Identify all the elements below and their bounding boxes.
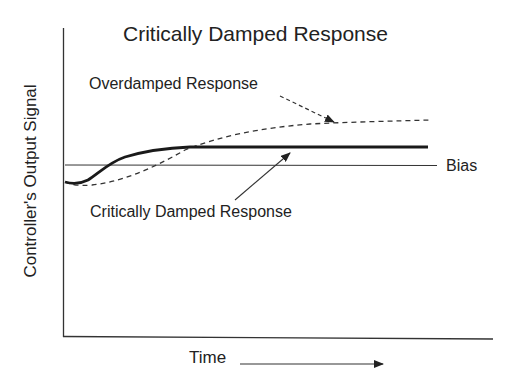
bias-line: [65, 165, 437, 166]
overdamped-curve: [65, 120, 430, 185]
x-axis-label: Time: [189, 348, 226, 368]
overdamped-label: Overdamped Response: [89, 75, 258, 93]
chart-canvas: [0, 0, 518, 385]
x-axis: [63, 337, 493, 340]
critically-damped-arrow: [235, 153, 290, 200]
bias-label: Bias: [446, 157, 477, 175]
overdamped-arrow: [280, 96, 334, 122]
critically-damped-label: Critically Damped Response: [90, 203, 292, 221]
y-axis-label: Controller's Output Signal: [21, 84, 41, 277]
chart-title: Critically Damped Response: [123, 22, 388, 46]
